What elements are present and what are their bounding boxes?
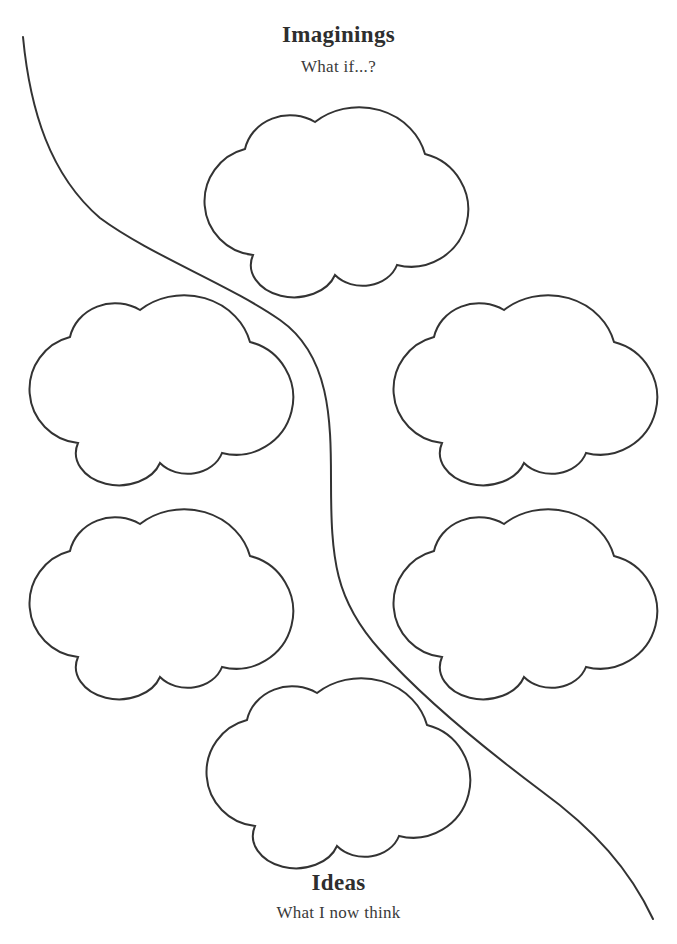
imaginings-ideas-worksheet: Imaginings What if...? Ideas What I now … — [0, 0, 677, 944]
cloud-bottom[interactable] — [207, 678, 471, 868]
imaginings-title: Imaginings — [0, 20, 677, 50]
cloud-middle-left[interactable] — [30, 295, 294, 485]
ideas-subtitle: What I now think — [0, 902, 677, 924]
cloud-top[interactable] — [205, 107, 469, 297]
worksheet-artwork — [0, 0, 677, 944]
imaginings-subtitle: What if...? — [0, 56, 677, 78]
ideas-title: Ideas — [0, 868, 677, 898]
cloud-lower-right[interactable] — [394, 509, 658, 699]
cloud-lower-left[interactable] — [30, 509, 294, 699]
cloud-middle-right[interactable] — [394, 295, 658, 485]
